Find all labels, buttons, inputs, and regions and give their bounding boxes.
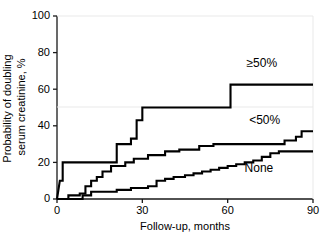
- y-tick-label: 80: [38, 46, 50, 58]
- series-label-0: ≥50%: [246, 56, 277, 70]
- series-curve-0: [57, 85, 313, 199]
- x-axis-title: Follow-up, months: [140, 220, 230, 232]
- y-axis-tick-labels: 020406080100: [32, 9, 50, 204]
- y-tick-label: 40: [38, 119, 50, 131]
- series-curves: [57, 85, 313, 199]
- y-tick-label: 100: [32, 9, 50, 21]
- x-tick-label: 60: [222, 204, 234, 216]
- series-curve-2: [57, 151, 313, 199]
- y-tick-label: 0: [44, 192, 50, 204]
- series-label-2: None: [245, 161, 274, 175]
- x-tick-label: 30: [136, 204, 148, 216]
- y-axis-title-line1: Probability of doubling serum creatinine…: [1, 51, 27, 162]
- y-tick-label: 60: [38, 83, 50, 95]
- chart-container: 020406080100 0306090 ≥50%<50%None Follow…: [0, 0, 330, 245]
- x-axis-tick-labels: 0306090: [54, 204, 319, 216]
- kaplan-meier-chart: 020406080100 0306090 ≥50%<50%None Follow…: [0, 0, 330, 245]
- x-tick-label: 90: [307, 204, 319, 216]
- series-curve-1: [57, 131, 313, 199]
- x-tick-label: 0: [54, 204, 60, 216]
- series-label-1: <50%: [249, 113, 280, 127]
- y-tick-label: 20: [38, 156, 50, 168]
